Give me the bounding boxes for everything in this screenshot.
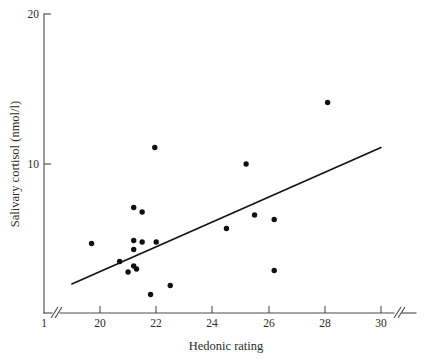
- data-point-group: [89, 100, 330, 297]
- data-point: [325, 100, 330, 105]
- data-point: [243, 161, 248, 166]
- x-tick-label-30: 30: [375, 317, 387, 329]
- y-tick-label-10: 10: [28, 158, 40, 170]
- data-point: [139, 209, 144, 214]
- data-point: [131, 238, 136, 243]
- data-point: [252, 212, 257, 217]
- plot-canvas: 20 10 1 20 22 24 26 28 30 Hedonic rating…: [0, 0, 425, 359]
- x-tick-label-24: 24: [206, 317, 218, 329]
- data-point: [89, 241, 94, 246]
- x-tick-label-26: 26: [263, 317, 275, 329]
- data-point: [131, 247, 136, 252]
- y-axis-title: Salivary cortisol (nmol/l): [8, 101, 22, 227]
- y-tick-label-20: 20: [28, 8, 40, 20]
- data-point: [272, 217, 277, 222]
- data-point: [131, 205, 136, 210]
- data-point: [272, 268, 277, 273]
- data-point: [117, 259, 122, 264]
- x-tick-label-22: 22: [150, 317, 162, 329]
- data-point: [134, 266, 139, 271]
- data-point: [152, 145, 157, 150]
- x-tick-label-28: 28: [319, 317, 331, 329]
- x-axis-title: Hedonic rating: [189, 339, 264, 353]
- x-tick-label-1: 1: [41, 317, 47, 329]
- data-point: [154, 239, 159, 244]
- data-point: [139, 239, 144, 244]
- scatter-plot-figure: 20 10 1 20 22 24 26 28 30 Hedonic rating…: [0, 0, 425, 359]
- data-point: [125, 269, 130, 274]
- data-point: [224, 226, 229, 231]
- data-point: [168, 283, 173, 288]
- x-tick-label-20: 20: [94, 317, 106, 329]
- data-point: [148, 292, 153, 297]
